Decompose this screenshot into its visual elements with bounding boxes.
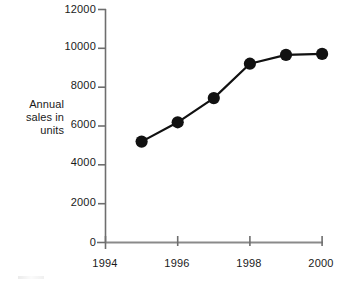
data-line <box>142 54 323 142</box>
y-axis-ticks <box>97 10 106 243</box>
line-chart: Annual sales in units 12000 10000 8000 6… <box>0 0 338 284</box>
scan-artifact <box>18 276 44 279</box>
plot-area <box>0 0 338 284</box>
data-point-1998 <box>244 58 256 70</box>
data-point-1995 <box>136 136 148 148</box>
data-point-1996 <box>172 116 184 128</box>
data-markers <box>136 48 329 148</box>
data-point-1997 <box>208 92 220 104</box>
data-point-2000 <box>316 48 328 60</box>
data-point-1999 <box>280 49 292 61</box>
